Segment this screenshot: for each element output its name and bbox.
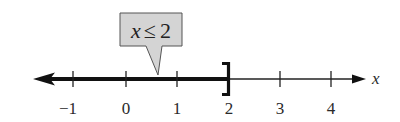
tick-label-4: 4 bbox=[327, 99, 336, 118]
right-arrow-icon bbox=[352, 75, 366, 84]
tick-label-3: 3 bbox=[276, 99, 285, 118]
inequality-callout: x≤2 bbox=[120, 13, 182, 75]
tick-label-neg1: −1 bbox=[59, 99, 77, 118]
tick-label-1: 1 bbox=[173, 99, 182, 118]
tick-label-2: 2 bbox=[225, 99, 234, 118]
number-line-diagram: −1 0 1 2 3 4 x x≤2 bbox=[0, 0, 400, 122]
tick-label-0: 0 bbox=[122, 99, 131, 118]
axis-label: x bbox=[371, 69, 380, 88]
callout-text: x≤2 bbox=[130, 18, 171, 43]
